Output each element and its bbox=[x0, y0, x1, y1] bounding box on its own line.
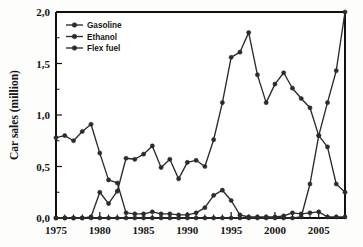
data-point bbox=[54, 216, 58, 220]
data-point bbox=[238, 216, 242, 220]
data-point bbox=[185, 160, 189, 164]
y-axis-title: Car sales (million) bbox=[8, 70, 21, 160]
data-point bbox=[150, 210, 154, 214]
data-point bbox=[89, 216, 93, 220]
data-point bbox=[308, 211, 312, 215]
chart-figure: 0,00,51,01,52,0 197519801985199019952000… bbox=[0, 0, 363, 247]
plot-background bbox=[56, 12, 345, 218]
data-point bbox=[133, 157, 137, 161]
data-point bbox=[133, 216, 137, 220]
x-axis-tick-labels: 1975198019851990199520002005 bbox=[45, 224, 330, 236]
data-point bbox=[317, 210, 321, 214]
legend-marker bbox=[72, 46, 77, 51]
data-point bbox=[308, 182, 312, 186]
data-point bbox=[115, 189, 119, 193]
data-point bbox=[273, 82, 277, 86]
data-point bbox=[80, 216, 84, 220]
data-point bbox=[290, 211, 294, 215]
data-point bbox=[133, 212, 137, 216]
x-tick-label: 1995 bbox=[220, 224, 243, 236]
data-point bbox=[220, 188, 224, 192]
data-point bbox=[141, 216, 145, 220]
data-point bbox=[229, 216, 233, 220]
y-tick-label: 1,5 bbox=[36, 58, 50, 70]
data-point bbox=[264, 101, 268, 105]
data-point bbox=[124, 216, 128, 220]
data-point bbox=[106, 201, 110, 205]
data-point bbox=[185, 216, 189, 220]
data-point bbox=[141, 152, 145, 156]
data-point bbox=[80, 129, 84, 133]
data-point bbox=[98, 216, 102, 220]
data-point bbox=[317, 134, 321, 138]
y-tick-label: 1,0 bbox=[36, 109, 50, 121]
legend-label: Gasoline bbox=[87, 21, 122, 30]
legend-marker bbox=[72, 23, 77, 28]
y-tick-label: 2,0 bbox=[36, 6, 50, 18]
data-point bbox=[282, 216, 286, 220]
x-tick-label: 1980 bbox=[89, 224, 112, 236]
data-point bbox=[177, 216, 181, 220]
data-point bbox=[247, 30, 251, 34]
data-point bbox=[212, 138, 216, 142]
data-point bbox=[290, 86, 294, 90]
data-point bbox=[212, 216, 216, 220]
data-point bbox=[255, 216, 259, 220]
data-point bbox=[203, 216, 207, 220]
data-point bbox=[229, 198, 233, 202]
data-point bbox=[124, 211, 128, 215]
data-point bbox=[106, 178, 110, 182]
data-point bbox=[334, 182, 338, 186]
x-tick-label: 1985 bbox=[133, 224, 156, 236]
data-point bbox=[238, 50, 242, 54]
data-point bbox=[141, 212, 145, 216]
legend-label: Ethanol bbox=[87, 33, 117, 42]
data-point bbox=[255, 73, 259, 77]
data-point bbox=[299, 96, 303, 100]
data-point bbox=[212, 193, 216, 197]
data-point bbox=[325, 145, 329, 149]
data-point bbox=[203, 206, 207, 210]
chart-legend: GasolineEthanolFlex fuel bbox=[66, 21, 122, 53]
data-point bbox=[203, 164, 207, 168]
data-point bbox=[343, 215, 347, 219]
data-point bbox=[150, 216, 154, 220]
y-tick-label: 0,5 bbox=[36, 161, 50, 173]
y-axis-tick-labels: 0,00,51,01,52,0 bbox=[36, 6, 50, 224]
legend-marker bbox=[72, 34, 77, 39]
data-point bbox=[273, 216, 277, 220]
data-point bbox=[220, 216, 224, 220]
data-point bbox=[194, 211, 198, 215]
data-point bbox=[159, 165, 163, 169]
data-point bbox=[299, 215, 303, 219]
y-axis-title-text: Car sales (million) bbox=[8, 70, 21, 160]
x-tick-label: 2005 bbox=[308, 224, 331, 236]
data-point bbox=[124, 156, 128, 160]
legend-label: Flex fuel bbox=[87, 44, 120, 53]
data-point bbox=[282, 71, 286, 75]
data-point bbox=[63, 216, 67, 220]
x-tick-label: 1990 bbox=[176, 224, 199, 236]
data-point bbox=[54, 136, 58, 140]
data-point bbox=[290, 216, 294, 220]
data-point bbox=[168, 212, 172, 216]
data-point bbox=[325, 101, 329, 105]
data-point bbox=[71, 139, 75, 143]
data-point bbox=[98, 151, 102, 155]
data-point bbox=[247, 216, 251, 220]
data-point bbox=[98, 190, 102, 194]
data-point bbox=[194, 216, 198, 220]
data-point bbox=[334, 215, 338, 219]
data-point bbox=[168, 157, 172, 161]
x-tick-label: 1975 bbox=[45, 224, 68, 236]
data-point bbox=[106, 216, 110, 220]
data-point bbox=[168, 216, 172, 220]
line-chart: 0,00,51,01,52,0 197519801985199019952000… bbox=[0, 0, 363, 247]
data-point bbox=[63, 134, 67, 138]
data-point bbox=[343, 10, 347, 14]
data-point bbox=[229, 55, 233, 59]
data-point bbox=[150, 144, 154, 148]
data-point bbox=[308, 106, 312, 110]
data-point bbox=[264, 216, 268, 220]
data-point bbox=[115, 216, 119, 220]
